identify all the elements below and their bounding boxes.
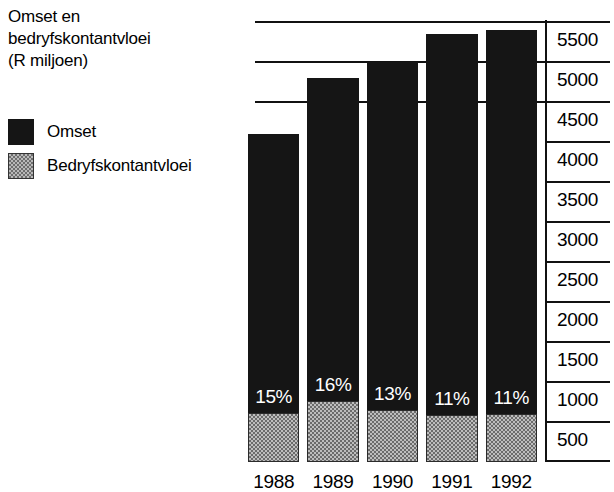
y-axis-tick-label: 2000 — [557, 310, 598, 329]
y-axis-tick-label: 1500 — [557, 350, 598, 369]
x-axis-tick-label-1990: 1990 — [361, 472, 424, 491]
gridline — [255, 21, 610, 23]
bar-percent-label: 11% — [427, 389, 476, 408]
y-axis-tick-label: 2500 — [557, 270, 598, 289]
bar-1990: 13% — [367, 62, 418, 462]
y-axis-tick-label: 3000 — [557, 230, 598, 249]
x-axis-tick-label-1991: 1991 — [420, 472, 483, 491]
y-axis-tick — [545, 341, 610, 343]
y-axis-tick-label: 5500 — [557, 30, 598, 49]
bar-segment-bedryfskontantvloei — [426, 415, 477, 462]
bar-percent-label: 16% — [308, 375, 357, 394]
bar-percent-label: 15% — [249, 387, 298, 406]
bar-segment-omset: 13% — [367, 62, 418, 410]
x-axis-tick-label-1992: 1992 — [480, 472, 543, 491]
bar-percent-label: 11% — [487, 388, 536, 407]
bar-segment-omset: 11% — [426, 34, 477, 415]
y-axis-tick-label: 3500 — [557, 190, 598, 209]
y-axis-line — [545, 20, 547, 462]
y-axis-baseline-tick — [545, 460, 610, 462]
y-axis-tick — [545, 181, 610, 183]
bar-1991: 11% — [426, 34, 477, 462]
y-axis-tick — [545, 261, 610, 263]
x-axis-tick-label-1988: 1988 — [242, 472, 305, 491]
y-axis-tick — [545, 421, 610, 423]
y-axis-tick-label: 1000 — [557, 390, 598, 409]
bar-segment-bedryfskontantvloei — [486, 414, 537, 462]
y-axis-tick-label: 4500 — [557, 110, 598, 129]
bar-segment-bedryfskontantvloei — [367, 410, 418, 462]
y-axis-tick-label: 5000 — [557, 70, 598, 89]
y-axis-tick — [545, 301, 610, 303]
y-axis-tick — [545, 141, 610, 143]
bar-segment-omset: 16% — [307, 78, 358, 401]
bar-segment-bedryfskontantvloei — [307, 401, 358, 462]
y-axis-tick-label: 4000 — [557, 150, 598, 169]
bar-1988: 15% — [248, 134, 299, 462]
y-axis-tick-label: 500 — [557, 430, 588, 449]
y-axis-tick — [545, 221, 610, 223]
bar-segment-omset: 15% — [248, 134, 299, 413]
bar-percent-label: 13% — [368, 384, 417, 403]
y-axis-tick — [545, 381, 610, 383]
bar-1989: 16% — [307, 78, 358, 462]
bar-1992: 11% — [486, 30, 537, 462]
bar-segment-omset: 11% — [486, 30, 537, 414]
x-axis-tick-label-1989: 1989 — [301, 472, 364, 491]
bar-segment-bedryfskontantvloei — [248, 413, 299, 462]
